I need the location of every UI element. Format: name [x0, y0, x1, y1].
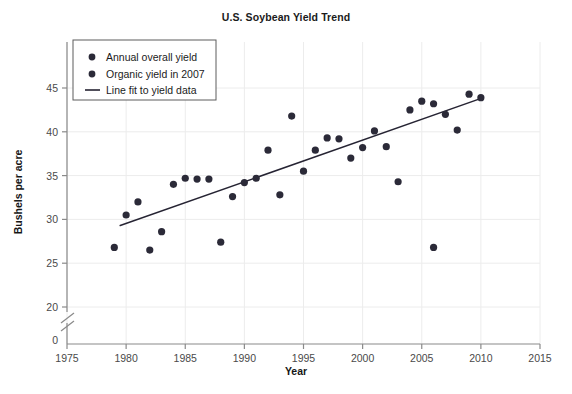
y-tick-label: 35: [46, 170, 58, 182]
data-point: [170, 181, 177, 188]
data-point: [205, 176, 212, 183]
y-tick-label: 25: [46, 257, 58, 269]
x-tick-label: 2005: [410, 352, 434, 364]
legend-marker-organic-yield: [89, 71, 96, 78]
y-axis-zero-label: 0: [52, 334, 58, 346]
fit-line-group: [120, 98, 483, 226]
data-point: [276, 191, 283, 198]
data-point: [395, 178, 402, 185]
data-point: [383, 143, 390, 150]
y-tick-label: 30: [46, 213, 58, 225]
x-tick-label: 1995: [292, 352, 316, 364]
fit-line: [120, 98, 483, 226]
x-tick-label: 2000: [351, 352, 375, 364]
x-tick-label: 1980: [114, 352, 138, 364]
x-tick-label: 1985: [174, 352, 198, 364]
data-point: [430, 244, 437, 251]
data-point: [312, 147, 319, 154]
data-point: [359, 144, 366, 151]
y-tick-marks-group: [62, 88, 67, 307]
x-tick-labels-group: 197519801985199019952000200520102015: [55, 352, 552, 364]
legend-label-organic-yield: Organic yield in 2007: [106, 68, 205, 80]
x-tick-label: 1975: [55, 352, 79, 364]
chart-figure: U.S. Soybean Yield Trend 202530354045 19…: [0, 0, 572, 394]
y-tick-label: 45: [46, 82, 58, 94]
y-axis-title: Bushels per acre: [12, 150, 24, 235]
data-point: [253, 175, 260, 182]
data-point: [193, 176, 200, 183]
chart-legend[interactable]: Annual overall yield Organic yield in 20…: [73, 40, 216, 100]
data-point: [217, 239, 224, 246]
data-point: [229, 193, 236, 200]
y-tick-labels-group: 202530354045: [46, 82, 58, 313]
data-point: [123, 211, 130, 218]
data-point: [430, 100, 437, 107]
data-point: [182, 175, 189, 182]
data-point: [158, 228, 165, 235]
data-points-group: [111, 91, 485, 254]
data-point: [134, 198, 141, 205]
scatter-plot: 202530354045 197519801985199019952000200…: [0, 0, 572, 394]
data-point: [406, 106, 413, 113]
data-point: [288, 112, 295, 119]
data-point: [324, 134, 331, 141]
data-point: [477, 94, 484, 101]
data-point: [335, 135, 342, 142]
data-point: [111, 244, 118, 251]
legend-label-fit-line: Line fit to yield data: [106, 84, 197, 96]
data-point: [371, 127, 378, 134]
data-point: [241, 179, 248, 186]
data-point: [347, 154, 354, 161]
y-tick-label: 40: [46, 126, 58, 138]
data-point: [300, 168, 307, 175]
y-tick-label: 20: [46, 301, 58, 313]
data-point: [264, 147, 271, 154]
legend-marker-annual-overall-yield: [89, 54, 96, 61]
data-point: [146, 246, 153, 253]
x-tick-label: 1990: [233, 352, 257, 364]
x-tick-label: 2015: [528, 352, 552, 364]
data-point: [454, 126, 461, 133]
data-point: [418, 98, 425, 105]
x-tick-marks-group: [67, 344, 540, 349]
x-axis-title: Year: [285, 365, 307, 377]
data-point: [442, 111, 449, 118]
data-point: [465, 91, 472, 98]
x-tick-label: 2010: [469, 352, 493, 364]
legend-label-annual-overall-yield: Annual overall yield: [106, 51, 197, 63]
